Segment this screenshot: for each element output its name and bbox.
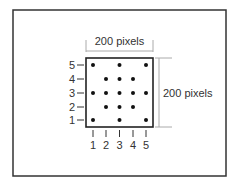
y-tick-1: 1 [69,114,75,126]
y-tick-4: 4 [69,73,75,85]
sample-point [104,77,108,81]
x-tick-2: 2 [103,139,109,151]
height-label: 200 pixels [163,87,213,99]
x-tick-5: 5 [143,139,149,151]
y-axis: 5 4 3 2 1 [69,59,84,126]
width-dimension: 200 pixels [86,35,153,52]
sample-point [91,91,95,95]
sample-point [104,105,108,109]
y-tick-2: 2 [69,101,75,113]
y-tick-5: 5 [69,59,75,71]
sample-point [118,105,122,109]
sample-point [144,91,148,95]
sample-point [131,105,135,109]
sample-point [118,91,122,95]
sample-point [91,118,95,122]
sample-point [118,77,122,81]
x-tick-1: 1 [90,139,96,151]
sample-point [104,91,108,95]
x-tick-3: 3 [116,139,122,151]
sample-point [118,63,122,67]
height-dimension: 200 pixels [155,58,213,127]
sample-point [131,91,135,95]
sample-point [91,63,95,67]
sample-point [144,63,148,67]
y-tick-3: 3 [69,87,75,99]
x-axis: 1 2 3 4 5 [90,130,149,151]
sample-point [131,77,135,81]
sample-point [118,118,122,122]
width-label: 200 pixels [95,35,145,47]
x-tick-4: 4 [130,139,136,151]
sample-point [144,118,148,122]
dot-grid-diagram: 200 pixels 200 pixels 5 4 3 2 1 1 2 3 4 … [0,0,237,187]
